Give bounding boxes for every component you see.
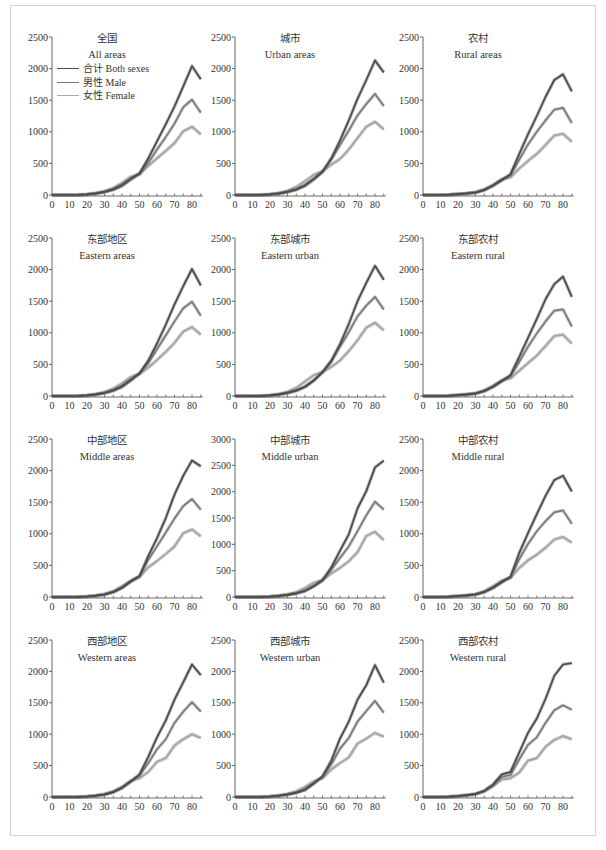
figure-frame [10, 5, 596, 836]
